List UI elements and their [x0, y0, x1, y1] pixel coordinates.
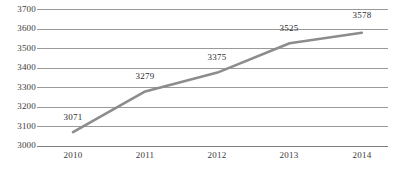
gridline-3600: [37, 29, 388, 30]
y-tick-label: 3400: [2, 62, 36, 72]
gridline-3300: [37, 87, 388, 88]
x-tick-label-2010: 2010: [50, 150, 96, 161]
y-tick-label: 3000: [2, 140, 36, 150]
gridline-3700: [37, 9, 388, 10]
y-tick-label: 3100: [2, 121, 36, 131]
plot-area: [37, 9, 388, 146]
data-label-2014: 3578: [340, 10, 384, 20]
data-label-2012: 3375: [195, 52, 239, 62]
gridline-3100: [37, 126, 388, 127]
gridline-3400: [37, 68, 388, 69]
x-axis-line: [37, 146, 388, 147]
x-tick-label-2012: 2012: [194, 150, 240, 161]
gridline-3500: [37, 48, 388, 49]
x-tick-label-2013: 2013: [266, 150, 312, 161]
y-tick-label: 3300: [2, 82, 36, 92]
y-tick-label: 3600: [2, 23, 36, 33]
line-chart: 3700 3600 3500 3400 3300 3200 3100 3000 …: [0, 0, 398, 172]
y-tick-label: 3700: [2, 4, 36, 14]
x-tick-label-2014: 2014: [339, 150, 385, 161]
data-label-2011: 3279: [123, 71, 167, 81]
data-label-2013: 3525: [267, 23, 311, 33]
y-tick-label: 3200: [2, 101, 36, 111]
gridline-3200: [37, 107, 388, 108]
data-label-2010: 3071: [51, 112, 95, 122]
x-tick-label-2011: 2011: [122, 150, 168, 161]
y-tick-label: 3500: [2, 43, 36, 53]
